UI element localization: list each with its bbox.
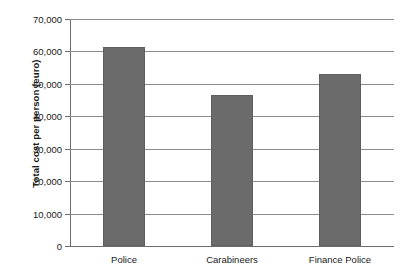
y-axis-tick xyxy=(65,84,70,85)
y-axis-tick xyxy=(65,51,70,52)
y-axis-tick xyxy=(65,149,70,150)
gridline xyxy=(70,19,394,20)
y-axis-tick xyxy=(65,214,70,215)
x-axis-tick-label: Police xyxy=(111,254,137,265)
bar xyxy=(319,74,361,246)
y-axis-tick-label: 10,000 xyxy=(4,208,62,219)
bar xyxy=(103,47,145,246)
bar-chart: Total cost per person (euro) 010,00020,0… xyxy=(0,0,411,277)
y-axis-tick-label: 20,000 xyxy=(4,176,62,187)
x-axis-tick-label: Finance Police xyxy=(309,254,371,265)
y-axis-tick-label: 0 xyxy=(4,241,62,252)
y-axis-tick-label: 30,000 xyxy=(4,143,62,154)
y-axis-tick-label: 60,000 xyxy=(4,46,62,57)
y-axis-tick-label: 50,000 xyxy=(4,78,62,89)
y-axis-tick-label: 40,000 xyxy=(4,111,62,122)
axis-baseline xyxy=(70,246,394,247)
y-axis-tick-labels: 010,00020,00030,00040,00050,00060,00070,… xyxy=(0,0,62,277)
y-axis-tick-label: 70,000 xyxy=(4,14,62,25)
y-axis-tick xyxy=(65,246,70,247)
y-axis-tick xyxy=(65,19,70,20)
y-axis-tick xyxy=(65,181,70,182)
bar xyxy=(211,95,253,246)
plot-area xyxy=(70,19,394,246)
y-axis-tick xyxy=(65,116,70,117)
x-axis-tick-label: Carabineers xyxy=(206,254,258,265)
